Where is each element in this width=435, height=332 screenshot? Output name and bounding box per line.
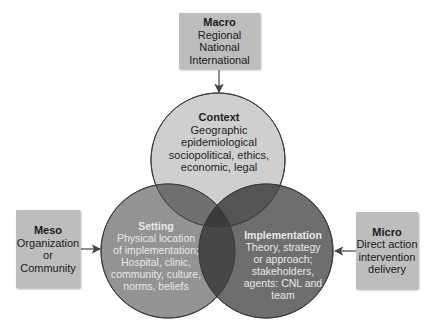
macro-line: International xyxy=(189,54,250,67)
meso-line: Community xyxy=(20,262,76,275)
macro-title: Macro xyxy=(203,16,235,29)
micro-box: Micro Direct action intervention deliver… xyxy=(356,212,418,289)
context-line: economic, legal xyxy=(181,161,257,174)
macro-box: Macro Regional National International xyxy=(179,13,260,69)
context-label: Context Geographic epidemiological socio… xyxy=(160,111,278,174)
meso-box: Meso Organization or Community xyxy=(16,210,80,288)
context-line: epidemiological xyxy=(181,136,257,149)
micro-line: delivery xyxy=(368,263,406,276)
implementation-line: agents: CNL and xyxy=(244,277,322,289)
context-line: sociopolitical, ethics, xyxy=(169,149,269,162)
setting-label: Setting Physical location of implementat… xyxy=(106,220,206,292)
context-title: Context xyxy=(199,111,240,124)
setting-line: of implementation; xyxy=(113,244,199,256)
micro-line: intervention xyxy=(359,251,416,264)
implementation-line: stakeholders, xyxy=(252,265,314,277)
implementation-line: or approach; xyxy=(254,253,313,265)
implementation-line: team xyxy=(271,289,294,301)
macro-line: National xyxy=(199,41,239,54)
setting-line: norms, beliefs xyxy=(123,280,188,292)
micro-title: Micro xyxy=(372,226,401,239)
meso-line: Organization xyxy=(17,237,79,250)
setting-line: Physical location xyxy=(117,232,195,244)
micro-line: Direct action xyxy=(356,238,417,251)
implementation-label: Implementation Theory, strategy or appro… xyxy=(240,229,326,301)
context-line: Geographic xyxy=(191,124,248,137)
meso-line: or xyxy=(43,249,53,262)
setting-line: Hospital, clinic, xyxy=(121,256,191,268)
setting-line: community, culture, xyxy=(111,268,201,280)
meso-title: Meso xyxy=(34,224,62,237)
implementation-line: Theory, strategy xyxy=(245,241,320,253)
implementation-title: Implementation xyxy=(244,229,322,241)
macro-line: Regional xyxy=(198,29,241,42)
setting-title: Setting xyxy=(138,220,174,232)
